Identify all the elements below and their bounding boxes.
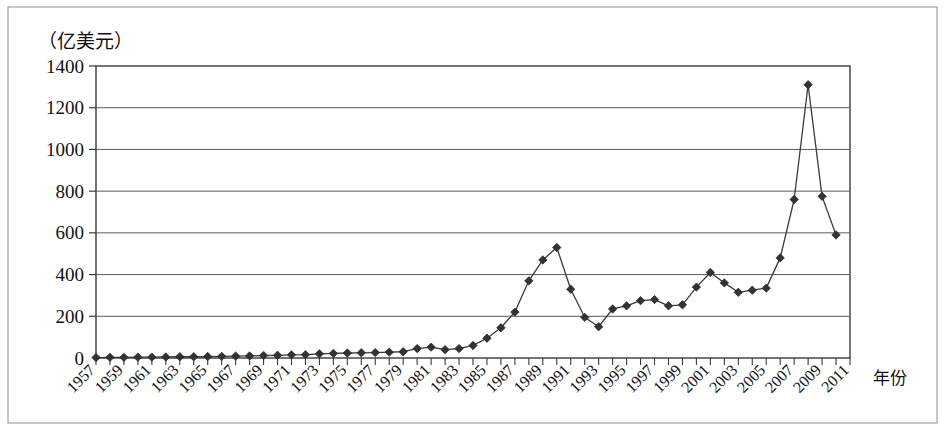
x-axis-tick-labels: 1957195919611963196519671969197119731975… [63,361,852,396]
x-tick-label: 1997 [622,361,657,396]
y-tick-label: 200 [56,306,85,327]
data-point-marker [106,353,114,361]
x-tick-label: 1959 [91,361,126,396]
data-point-marker [427,343,435,351]
x-tick-label: 2005 [734,361,769,396]
data-point-marker [134,353,142,361]
x-tick-label: 2009 [790,361,825,396]
data-point-marker [525,277,533,285]
data-point-marker [204,352,212,360]
x-tick-label: 2001 [678,361,713,396]
data-point-marker [622,302,630,310]
y-tick-label: 1400 [46,56,84,77]
data-point-marker [217,352,225,360]
y-tick-marks [89,66,96,316]
x-tick-label: 1971 [259,361,294,396]
x-tick-label: 1967 [203,361,238,396]
data-point-marker [162,353,170,361]
data-point-marker [832,231,840,239]
y-tick-label: 600 [56,222,85,243]
x-tick-label: 1975 [315,361,350,396]
data-point-marker [399,348,407,356]
data-point-marker [762,284,770,292]
x-tick-label: 2007 [762,361,797,396]
x-tick-label: 1961 [119,361,154,396]
data-point-marker [120,353,128,361]
y-tick-label: 1000 [46,139,84,160]
data-point-marker [469,341,477,349]
x-tick-label: 1979 [371,361,406,396]
data-point-marker [581,313,589,321]
data-point-marker [636,296,644,304]
x-tick-label: 1983 [427,361,462,396]
data-point-marker [231,352,239,360]
data-point-marker [441,345,449,353]
data-point-marker [734,288,742,296]
gridlines [96,108,850,317]
data-point-marker [790,195,798,203]
x-tick-label: 2011 [818,361,852,395]
data-point-marker [329,349,337,357]
data-point-marker [190,353,198,361]
x-tick-label: 1995 [594,361,629,396]
data-point-marker [650,295,658,303]
data-point-marker [385,348,393,356]
x-tick-label: 1963 [147,361,182,396]
data-point-marker [245,352,253,360]
x-tick-label: 1999 [650,361,685,396]
data-point-marker [371,348,379,356]
data-point-marker [776,254,784,262]
data-point-marker [804,81,812,89]
data-point-marker [343,349,351,357]
x-tick-label: 2003 [706,361,741,396]
x-axis-title: 年份 [873,369,907,388]
x-tick-label: 1985 [454,361,489,396]
line-chart: 0200400600800100012001400 19571959196119… [0,0,945,431]
data-point-marker [455,344,463,352]
data-point-marker [818,192,826,200]
y-axis-tick-labels: 0200400600800100012001400 [46,56,84,369]
x-tick-label: 1965 [175,361,210,396]
data-point-marker [664,302,672,310]
data-series-markers [92,81,840,362]
data-point-marker [413,344,421,352]
x-tick-label: 1991 [538,361,573,396]
plot-area-border [96,66,850,358]
x-tick-label: 1987 [482,361,517,396]
x-tick-label: 1989 [510,361,545,396]
data-point-marker [357,349,365,357]
data-point-marker [176,353,184,361]
data-point-marker [567,285,575,293]
data-point-marker [315,350,323,358]
x-tick-label: 1981 [399,361,434,396]
x-tick-label: 1993 [566,361,601,396]
x-tick-label: 1969 [231,361,266,396]
data-point-marker [148,353,156,361]
y-tick-label: 1200 [46,97,84,118]
x-tick-label: 1957 [63,361,98,396]
x-tick-label: 1977 [343,361,378,396]
chart-figure: （亿美元） 0200400600800100012001400 19571959… [0,0,945,431]
y-tick-label: 400 [56,264,85,285]
x-tick-label: 1973 [287,361,322,396]
data-point-marker [748,286,756,294]
data-point-marker [92,353,100,361]
y-tick-label: 800 [56,181,85,202]
